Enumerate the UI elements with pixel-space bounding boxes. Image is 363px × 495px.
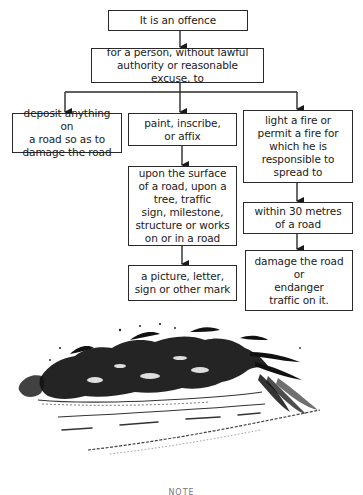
root-box: It is an offence	[108, 10, 248, 31]
paint-inscribe-affix-box: paint, inscribe, or affix	[128, 113, 237, 146]
note-label: NOTE	[0, 487, 363, 495]
roadside-hedge-illustration	[0, 318, 363, 478]
damage-endanger-box: damage the road or endanger traffic on i…	[245, 250, 353, 311]
picture-letter-sign-box: a picture, letter, sign or other mark	[128, 265, 237, 301]
within-30-metres-box: within 30 metres of a road	[243, 202, 353, 234]
light-fire-box: light a fire or permit a fire for which …	[243, 110, 353, 183]
surface-location-box: upon the surface of a road, upon a tree,…	[128, 166, 237, 246]
condition-box: for a person, without lawful authority o…	[91, 48, 264, 83]
deposit-box: deposit anything on a road so as to dama…	[12, 113, 122, 153]
